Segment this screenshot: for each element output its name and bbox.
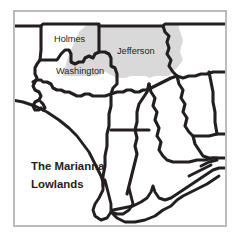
marianna-lowlands-map-figure: Holmes Jefferson Washington The Marianna… xyxy=(0,0,240,243)
map-drawing: Holmes Jefferson Washington The Marianna… xyxy=(13,10,227,227)
region-label-line-two: Lowlands xyxy=(31,178,84,190)
county-label-washington: Washington xyxy=(56,66,104,76)
map-frame-border: Holmes Jefferson Washington The Marianna… xyxy=(13,10,227,227)
county-label-jefferson: Jefferson xyxy=(117,46,155,56)
region-label-line-one: The Marianna xyxy=(31,160,105,172)
county-label-holmes: Holmes xyxy=(54,34,86,44)
